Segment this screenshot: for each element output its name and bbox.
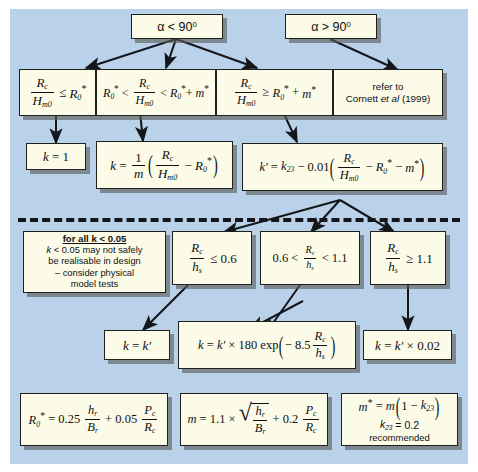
node-k-eq-fraction[interactable]: k = 1m ( Rc Hm0 − R0* ) xyxy=(96,141,233,189)
cond-rc-hs-mid-expr: 0.6 < Rc hs < 1.1 xyxy=(273,245,348,270)
cond-rc-ge-r0m-expr: Rc Hm0 ≥ R0* + m* xyxy=(233,77,316,108)
alpha-gt-90-label: α > 900 xyxy=(311,20,351,34)
alpha-lt-90-label: α < 900 xyxy=(157,20,197,34)
node-cond-rc-hs-mid[interactable]: 0.6 < Rc hs < 1.1 xyxy=(260,231,360,285)
cond-r0-lt-rc-expr: R0* < Rc Hm0 < R0* + m* xyxy=(103,77,209,107)
refer-line-2: Cornett et al (1999) xyxy=(346,93,430,105)
formula-k23-value: k23 = 0.2 xyxy=(380,419,419,431)
node-alpha-lt-90[interactable]: α < 900 xyxy=(131,14,223,39)
formula-m-star-expr: m* = m ( 1 − k23 ) xyxy=(359,394,441,419)
node-formula-r0-star[interactable]: R0* = 0.25 hr Br + 0.05 Pc Rc xyxy=(20,393,168,446)
node-cond-rc-le-r0[interactable]: Rc Hm0 ≤ R0* xyxy=(19,69,96,116)
note-line-1: k < 0.05 may not safely xyxy=(47,245,143,257)
node-cond-rc-hs-le-06[interactable]: Rc hs ≤ 0.6 xyxy=(172,231,252,285)
k-eq-002-expr: k = k' × 0.02 xyxy=(375,339,440,352)
refer-line-1: refer to xyxy=(372,81,403,93)
note-line-2: be realisable in design xyxy=(48,256,141,268)
node-k-eq-1[interactable]: k = 1 xyxy=(26,143,86,170)
cond-rc-hs-le-expr: Rc hs ≤ 0.6 xyxy=(187,241,236,275)
node-formula-m[interactable]: m = 1.1 × √ hr Br + 0.2 Pc Rc xyxy=(180,393,328,446)
node-k-eq-kprime[interactable]: k = k' xyxy=(104,330,170,360)
k-eq-fraction-expr: k = 1m ( Rc Hm0 − R0* ) xyxy=(110,148,218,182)
node-formula-m-star[interactable]: m* = m ( 1 − k23 ) k23 = 0.2 recommended xyxy=(341,393,458,446)
note-line-3: – consider physical xyxy=(55,268,134,280)
k-eq-kprime-expr: k = k' xyxy=(123,339,151,352)
node-cond-rc-ge-r0m[interactable]: Rc Hm0 ≥ R0* + m* xyxy=(216,69,333,116)
k-exp-formula-expr: k = k' × 180 exp ( − 8.5 Rc hs ) xyxy=(198,330,336,361)
k-eq-1-expr: k = 1 xyxy=(43,150,69,163)
node-kprime-formula[interactable]: k' = k23 − 0.01 ( Rc Hm0 − R0* − m* ) xyxy=(242,143,443,191)
cond-rc-le-r0-expr: Rc Hm0 ≤ R0* xyxy=(29,76,87,110)
node-cond-r0-lt-rc[interactable]: R0* < Rc Hm0 < R0* + m* xyxy=(96,69,216,116)
formula-r0-star-expr: R0* = 0.25 hr Br + 0.05 Pc Rc xyxy=(29,404,160,435)
formula-m-expr: m = 1.1 × √ hr Br + 0.2 Pc Rc xyxy=(187,403,320,436)
cond-rc-hs-ge-expr: Rc hs ≥ 1.1 xyxy=(383,241,432,275)
note-line-4: model tests xyxy=(71,279,119,291)
section-divider-dashed xyxy=(18,218,460,222)
node-cond-rc-hs-ge-11[interactable]: Rc hs ≥ 1.1 xyxy=(370,231,446,285)
flowchart-figure: α < 900 α > 900 Rc Hm0 ≤ R0* R0* < Rc Hm… xyxy=(0,0,478,472)
node-k-eq-002[interactable]: k = k' × 0.02 xyxy=(363,330,452,360)
kprime-formula-expr: k' = k23 − 0.01 ( Rc Hm0 − R0* − m* ) xyxy=(259,152,425,183)
node-refer-cornett[interactable]: refer to Cornett et al (1999) xyxy=(333,69,443,116)
note-title: for all k < 0.05 xyxy=(63,233,127,245)
node-note-k-below-005[interactable]: for all k < 0.05 k < 0.05 may not safely… xyxy=(23,231,166,293)
node-alpha-gt-90[interactable]: α > 900 xyxy=(285,14,377,39)
node-k-exp-formula[interactable]: k = k' × 180 exp ( − 8.5 Rc hs ) xyxy=(178,321,356,369)
formula-k23-note: recommended xyxy=(369,431,430,445)
